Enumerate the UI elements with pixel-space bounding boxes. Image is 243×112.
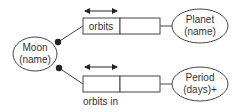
fact-orbits-role-right[interactable] <box>120 18 160 34</box>
mandatory-dot-orbits-in <box>56 65 62 71</box>
mandatory-dot-orbits <box>55 39 61 45</box>
planet-ref-label: (name) <box>184 26 216 37</box>
moon-orbits-in-connector <box>59 68 83 84</box>
orm-diagram: Moon (name) orbits orbits in Planet (nam… <box>0 0 243 112</box>
period-name-label: Period <box>186 72 215 83</box>
entity-planet[interactable]: Planet (name) <box>172 9 228 43</box>
moon-name-label: Moon <box>22 42 47 53</box>
entity-period[interactable]: Period (days)+ <box>172 67 228 101</box>
period-ref-label: (days)+ <box>183 84 217 95</box>
fact-orbits-in-reading: orbits in <box>83 96 118 107</box>
planet-name-label: Planet <box>186 14 215 25</box>
fact-orbits-in-role-right[interactable] <box>120 76 160 92</box>
fact-orbits-in[interactable]: orbits in <box>83 67 160 107</box>
fact-orbits-reading: orbits <box>89 21 113 32</box>
fact-orbits[interactable]: orbits <box>83 11 160 34</box>
fact-orbits-in-role-left[interactable] <box>83 76 120 92</box>
entity-moon[interactable]: Moon (name) <box>13 37 57 71</box>
moon-orbits-connector <box>58 26 83 42</box>
moon-ref-label: (name) <box>19 54 51 65</box>
